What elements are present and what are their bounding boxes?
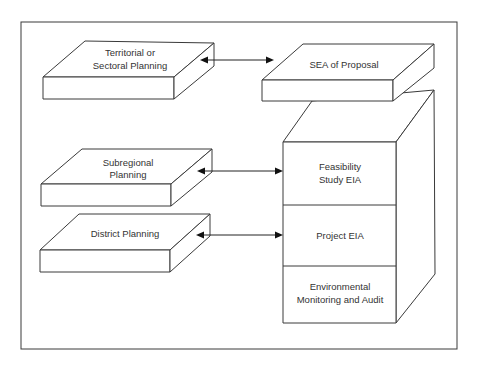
feasibility-label-line1: Feasibility <box>319 161 361 172</box>
subregional-label-line2: Planning <box>110 169 147 180</box>
monitoring-label-line1: Environmental <box>310 281 371 292</box>
territorial-label-line1: Territorial or <box>105 47 155 58</box>
arrowhead-right <box>275 168 283 175</box>
territorial-planning-slab: Territorial or Sectoral Planning <box>43 41 214 99</box>
arrowhead-right <box>266 57 274 64</box>
assessment-stack: Feasibility Study EIA Project EIA Enviro… <box>283 90 435 323</box>
sea-slab-front <box>262 80 393 101</box>
district-slab-front <box>40 250 170 272</box>
subregional-label-line1: Subregional <box>103 157 154 168</box>
territorial-label-line2: Sectoral Planning <box>93 60 167 71</box>
district-planning-slab: District Planning <box>40 214 210 272</box>
subregional-planning-slab: Subregional Planning <box>41 149 212 206</box>
territorial-slab-front <box>43 77 174 99</box>
subregional-slab-front <box>41 184 171 206</box>
arrowhead-right <box>275 232 283 239</box>
diagram-canvas: Territorial or Sectoral Planning Subregi… <box>0 0 478 370</box>
district-label: District Planning <box>91 228 160 239</box>
feasibility-label-line2: Study EIA <box>319 174 362 185</box>
sea-label: SEA of Proposal <box>309 59 378 70</box>
project-eia-label: Project EIA <box>316 230 364 241</box>
monitoring-label-line2: Monitoring and Audit <box>297 294 384 305</box>
